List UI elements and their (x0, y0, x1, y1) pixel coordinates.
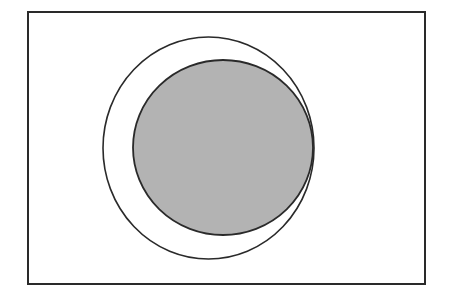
inner-set-shaded-circle (133, 60, 313, 235)
venn-diagram (0, 0, 451, 297)
